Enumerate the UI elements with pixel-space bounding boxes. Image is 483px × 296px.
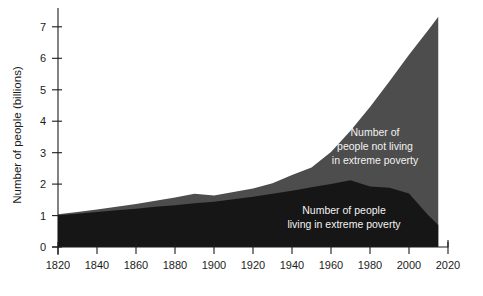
poverty-area-chart: 01234567 1820184018601880190019201940196… <box>0 0 483 296</box>
x-tick-label: 2000 <box>397 259 421 271</box>
annotation-line: Number of <box>350 126 399 138</box>
y-tick-label: 0 <box>40 241 46 253</box>
y-tick-label: 3 <box>40 147 46 159</box>
y-axis-title: Number of people (billions) <box>11 66 23 204</box>
x-tick-label: 1840 <box>85 259 109 271</box>
y-tick-label: 5 <box>40 84 46 96</box>
x-tick-label: 1960 <box>319 259 343 271</box>
x-tick-label: 1900 <box>202 259 226 271</box>
annotation-line: in extreme poverty <box>332 154 419 166</box>
y-tick-label: 1 <box>40 210 46 222</box>
y-tick-label: 2 <box>40 178 46 190</box>
annotation-line: living in extreme poverty <box>287 218 401 230</box>
y-tick-label: 7 <box>40 21 46 33</box>
annotation-line: people not living <box>337 140 413 152</box>
x-tick-label: 1820 <box>46 259 70 271</box>
x-axis-tick-labels: 1820184018601880190019201940196019802000… <box>46 259 460 271</box>
x-tick-label: 1880 <box>163 259 187 271</box>
annotation-line: Number of people <box>302 204 386 216</box>
chart-canvas: 01234567 1820184018601880190019201940196… <box>0 0 483 296</box>
y-tick-label: 6 <box>40 52 46 64</box>
x-tick-label: 1920 <box>241 259 265 271</box>
x-tick-label: 1980 <box>358 259 382 271</box>
x-tick-label: 1860 <box>124 259 148 271</box>
x-tick-label: 1940 <box>280 259 304 271</box>
y-tick-label: 4 <box>40 115 46 127</box>
x-tick-label: 2020 <box>436 259 460 271</box>
